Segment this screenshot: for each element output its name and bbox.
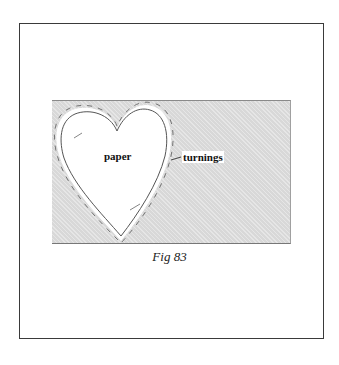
paper-heart-outline <box>61 109 167 236</box>
turnings-label: turnings <box>182 151 224 163</box>
turnings-leader-line <box>171 157 181 160</box>
figure-caption: Fig 83 <box>0 249 339 265</box>
paper-label: paper <box>104 150 132 162</box>
heart-diagram <box>52 100 291 244</box>
